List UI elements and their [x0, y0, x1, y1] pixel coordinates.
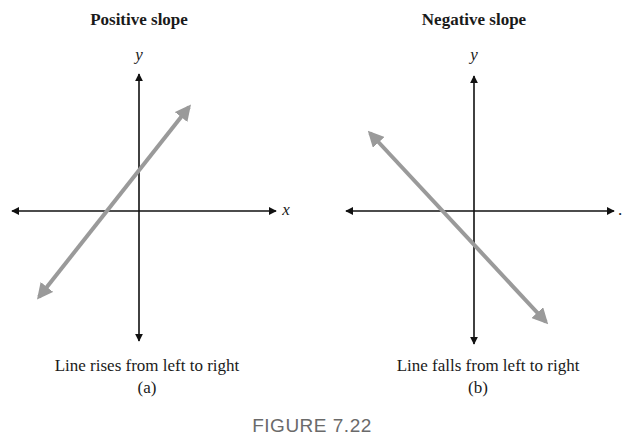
panel-a-title: Positive slope: [90, 10, 188, 30]
panel-b-x-axis-label: .: [618, 200, 622, 220]
panel-a-caption: Line rises from left to right: [55, 356, 240, 376]
panel-a-axes: [12, 74, 276, 341]
panel-b-negative-slope-line: [370, 133, 546, 322]
panel-a-positive-slope-line: [39, 107, 189, 297]
panel-b-title: Negative slope: [422, 10, 526, 30]
panel-a-sublabel: (a): [138, 378, 157, 398]
panel-a-x-axis-label: x: [282, 200, 290, 220]
panel-b-axes: [346, 76, 614, 344]
panel-b-caption: Line falls from left to right: [397, 356, 580, 376]
panel-b-sublabel: (b): [468, 378, 488, 398]
panel-b-y-axis-label: y: [470, 45, 478, 65]
panel-a-y-axis-label: y: [135, 45, 143, 65]
figure-label: FIGURE 7.22: [252, 415, 372, 437]
